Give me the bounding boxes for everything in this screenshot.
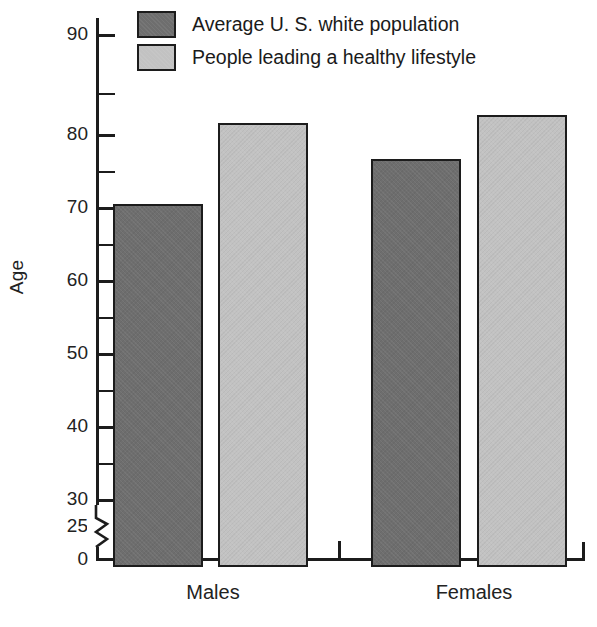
y-tick-label-70: 70 bbox=[42, 197, 88, 216]
y-axis-title: Age bbox=[6, 247, 28, 307]
y-tick-label-60: 60 bbox=[42, 270, 88, 289]
legend-label-average-us-white-population: Average U. S. white population bbox=[192, 13, 459, 36]
y-tick-mark-75 bbox=[99, 171, 115, 173]
x-axis-end-cap bbox=[582, 542, 585, 559]
y-tick-label-80: 80 bbox=[42, 124, 88, 143]
y-tick-label-30: 30 bbox=[42, 489, 88, 508]
bar-females-average-us-white-population[interactable] bbox=[371, 159, 461, 567]
legend-swatch-light-gray-icon bbox=[137, 44, 176, 71]
bar-males-average-us-white-population[interactable] bbox=[113, 204, 203, 567]
legend: Average U. S. white population People le… bbox=[137, 8, 467, 74]
y-tick-label-25: 25 bbox=[42, 516, 88, 535]
bar-chart-figure: Age 90 80 70 60 bbox=[0, 0, 597, 627]
legend-label-healthy-lifestyle: People leading a healthy lifestyle bbox=[192, 46, 476, 69]
y-tick-label-0: 0 bbox=[42, 549, 88, 568]
y-tick-label-90: 90 bbox=[42, 24, 88, 43]
y-tick-label-50: 50 bbox=[42, 343, 88, 362]
x-axis-label-males: Males bbox=[148, 581, 278, 604]
x-axis-group-divider-tick bbox=[338, 541, 341, 559]
y-axis-spine bbox=[96, 18, 99, 561]
x-axis-label-females: Females bbox=[404, 581, 544, 604]
y-tick-label-40: 40 bbox=[42, 416, 88, 435]
legend-entry-healthy-lifestyle[interactable]: People leading a healthy lifestyle bbox=[137, 41, 467, 74]
y-tick-mark-90 bbox=[99, 34, 115, 37]
legend-swatch-dark-gray-icon bbox=[137, 11, 176, 38]
legend-entry-average-us-white-population[interactable]: Average U. S. white population bbox=[137, 8, 467, 41]
y-tick-mark-85 bbox=[99, 93, 115, 95]
plot-area: 90 80 70 60 50 bbox=[96, 18, 588, 570]
y-tick-mark-80 bbox=[99, 134, 115, 137]
bar-males-healthy-lifestyle[interactable] bbox=[218, 123, 308, 567]
bar-females-healthy-lifestyle[interactable] bbox=[477, 115, 567, 567]
